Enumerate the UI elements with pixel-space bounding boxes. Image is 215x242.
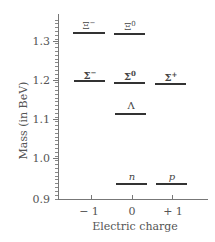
y-minor-tick xyxy=(55,86,58,87)
y-minor-tick xyxy=(55,137,58,138)
y-major-tick xyxy=(53,119,58,120)
y-minor-tick xyxy=(55,191,58,192)
y-minor-tick xyxy=(55,39,58,40)
label-xi-minus: Ξ− xyxy=(73,18,105,31)
y-minor-tick xyxy=(55,62,58,63)
level-sigma-zero xyxy=(114,82,145,84)
y-minor-tick xyxy=(55,164,58,165)
level-sigma-minus xyxy=(74,80,105,82)
y-minor-tick xyxy=(55,133,58,134)
y-minor-tick xyxy=(55,187,58,188)
y-minor-tick xyxy=(55,125,58,126)
y-minor-tick xyxy=(55,172,58,173)
y-minor-tick xyxy=(55,148,58,149)
x-tick xyxy=(91,195,92,200)
y-minor-tick xyxy=(55,47,58,48)
y-minor-tick xyxy=(55,78,58,79)
y-minor-tick xyxy=(55,109,58,110)
y-minor-tick xyxy=(55,156,58,157)
y-minor-tick xyxy=(55,152,58,153)
y-minor-tick xyxy=(55,59,58,60)
y-minor-tick xyxy=(55,140,58,141)
y-minor-tick xyxy=(55,74,58,75)
y-minor-tick xyxy=(55,179,58,180)
label-lambda: Λ xyxy=(115,101,147,111)
level-lambda xyxy=(115,113,146,115)
y-tick-label: 1.3 xyxy=(20,36,50,47)
x-tick-label: + 1 xyxy=(158,205,188,218)
y-minor-tick xyxy=(55,27,58,28)
level-sigma-plus xyxy=(155,83,186,85)
level-proton xyxy=(156,183,187,185)
label-proton: p xyxy=(156,172,188,182)
y-minor-tick xyxy=(55,195,58,196)
y-minor-tick xyxy=(55,43,58,44)
y-axis-line xyxy=(58,14,59,200)
y-minor-tick xyxy=(55,82,58,83)
y-minor-tick xyxy=(55,144,58,145)
y-axis-title: Mass (in BeV) xyxy=(17,76,30,166)
y-minor-tick xyxy=(55,117,58,118)
label-sigma-plus: Σ+ xyxy=(155,70,187,83)
y-minor-tick xyxy=(55,121,58,122)
y-minor-tick xyxy=(55,183,58,184)
y-minor-tick xyxy=(55,176,58,177)
y-minor-tick xyxy=(55,129,58,130)
y-minor-tick xyxy=(55,168,58,169)
y-major-tick xyxy=(53,80,58,81)
label-sigma-zero: Σ0 xyxy=(114,69,146,82)
x-tick-label: − 1 xyxy=(74,205,104,218)
y-minor-tick xyxy=(55,94,58,95)
y-minor-tick xyxy=(55,105,58,106)
y-minor-tick xyxy=(55,98,58,99)
y-minor-tick xyxy=(55,51,58,52)
label-xi-zero: Ξ0 xyxy=(114,19,146,32)
y-minor-tick xyxy=(55,31,58,32)
y-major-tick xyxy=(53,41,58,42)
y-minor-tick xyxy=(55,23,58,24)
label-neutron: n xyxy=(116,172,148,182)
y-minor-tick xyxy=(55,35,58,36)
y-minor-tick xyxy=(55,70,58,71)
y-minor-tick xyxy=(55,101,58,102)
level-neutron xyxy=(116,183,147,185)
x-tick-label: 0 xyxy=(117,205,147,218)
level-xi-zero xyxy=(114,33,145,35)
y-minor-tick xyxy=(55,160,58,161)
y-tick-label: 0.9 xyxy=(20,194,50,205)
y-minor-tick xyxy=(55,199,58,200)
x-tick xyxy=(172,195,173,200)
y-minor-tick xyxy=(55,20,58,21)
y-major-tick xyxy=(53,158,58,159)
level-xi-minus xyxy=(73,32,105,34)
y-minor-tick xyxy=(55,90,58,91)
x-axis-line xyxy=(58,199,208,200)
y-minor-tick xyxy=(55,55,58,56)
x-tick xyxy=(132,195,133,200)
y-minor-tick xyxy=(55,113,58,114)
x-axis-title: Electric charge xyxy=(80,220,190,233)
y-minor-tick xyxy=(55,66,58,67)
